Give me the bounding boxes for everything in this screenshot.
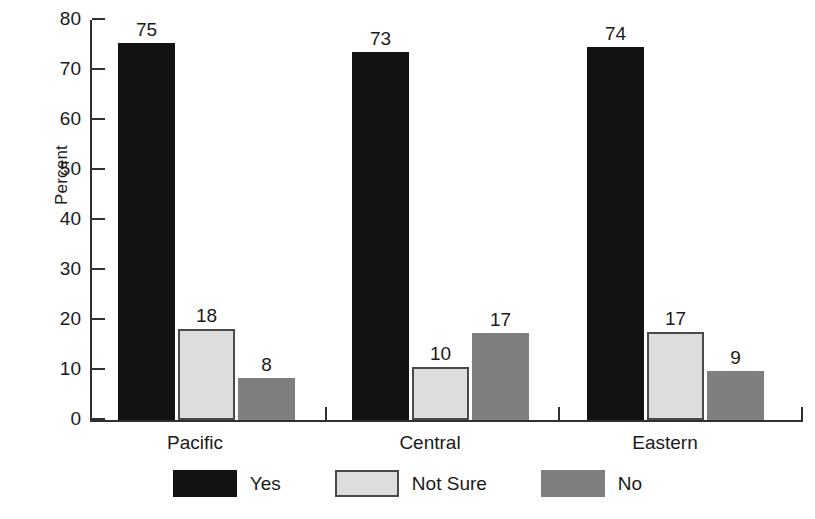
y-tick-50: 50: [90, 168, 105, 170]
bar-value-central-yes: 73: [370, 28, 391, 49]
bar-eastern-yes: 74: [587, 47, 644, 420]
bar-value-pacific-yes: 75: [136, 19, 157, 40]
legend-swatch-no: [541, 470, 605, 497]
y-tick-30: 30: [90, 268, 105, 270]
legend-label-no: No: [618, 473, 642, 495]
plot-area: 0 10 20 30 40 50 60 70: [90, 20, 803, 420]
bar-value-central-no: 17: [490, 309, 511, 330]
bar-chart-figure: Percent 0 10 20 30 40 50: [0, 0, 815, 519]
legend-item-no: No: [541, 470, 642, 497]
y-tick-20: 20: [90, 318, 105, 320]
x-category-label-eastern: Eastern: [615, 432, 715, 454]
legend-swatch-not-sure: [335, 470, 399, 497]
x-separator-tick-1: [325, 407, 327, 420]
legend-item-not-sure: Not Sure: [335, 470, 487, 497]
x-category-label-central: Central: [380, 432, 480, 454]
y-tick-10: 10: [90, 368, 105, 370]
bar-eastern-no: 9: [707, 371, 764, 420]
chart-legend: Yes Not Sure No: [0, 470, 815, 497]
bar-central-no: 17: [472, 333, 529, 420]
bar-pacific-no: 8: [238, 378, 295, 420]
bar-value-eastern-no: 9: [730, 347, 741, 368]
y-tick-0: 0: [90, 418, 105, 420]
legend-item-yes: Yes: [173, 470, 281, 497]
x-axis-line: [90, 420, 803, 422]
y-tick-40: 40: [90, 218, 105, 220]
bar-eastern-not-sure: 17: [647, 332, 704, 420]
y-tick-80: 80: [90, 18, 105, 20]
bar-pacific-yes: 75: [118, 43, 175, 420]
bar-central-yes: 73: [352, 52, 409, 420]
legend-swatch-yes: [173, 470, 237, 497]
x-separator-tick-2: [558, 407, 560, 420]
y-axis-line: [90, 20, 92, 420]
y-tick-70: 70: [90, 68, 105, 70]
bar-value-eastern-yes: 74: [605, 23, 626, 44]
bar-value-pacific-no: 8: [261, 354, 272, 375]
x-category-label-pacific: Pacific: [145, 432, 245, 454]
x-separator-tick-3: [801, 407, 803, 420]
legend-label-not-sure: Not Sure: [412, 473, 487, 495]
legend-label-yes: Yes: [250, 473, 281, 495]
bar-central-not-sure: 10: [412, 367, 469, 420]
bar-value-pacific-not-sure: 18: [196, 305, 217, 326]
y-tick-60: 60: [90, 118, 105, 120]
bar-pacific-not-sure: 18: [178, 329, 235, 420]
bar-value-central-not-sure: 10: [430, 343, 451, 364]
bar-value-eastern-not-sure: 17: [665, 308, 686, 329]
